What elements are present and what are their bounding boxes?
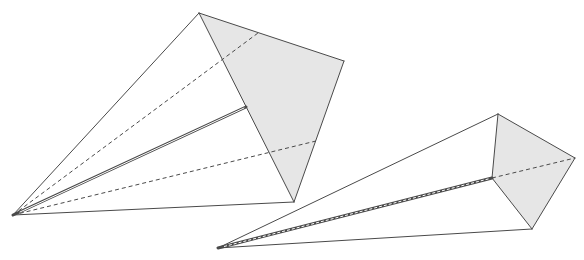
pyramid-1-edge-apex-top	[13, 13, 199, 215]
pyramid-1-double-edge	[13, 107, 246, 215]
pyramid-2-edge-apex-bottom	[218, 229, 532, 248]
pyramid-1-shaded-face	[199, 13, 344, 202]
pyramid-1-hidden-edge-upper	[13, 33, 258, 215]
diagram-canvas	[0, 0, 584, 260]
pyramid-1-edge-apex-bottom	[13, 202, 294, 215]
pyramid-2-double-edge	[218, 178, 492, 248]
pyramid-2-shaded-face	[492, 114, 575, 229]
pyramid-1	[13, 13, 344, 215]
